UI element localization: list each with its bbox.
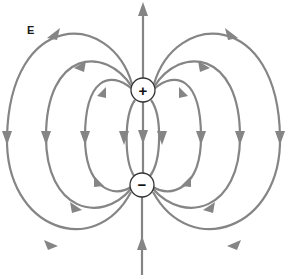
axis-line xyxy=(137,2,148,275)
dipole-diagram: E xyxy=(0,0,285,275)
negative-charge: − xyxy=(130,173,154,197)
left-field-lines xyxy=(7,34,135,229)
svg-text:−: − xyxy=(138,176,147,193)
positive-charge: + xyxy=(131,78,155,102)
right-field-lines xyxy=(150,34,280,229)
svg-text:+: + xyxy=(139,82,148,99)
field-lines-svg: + − xyxy=(0,0,285,275)
